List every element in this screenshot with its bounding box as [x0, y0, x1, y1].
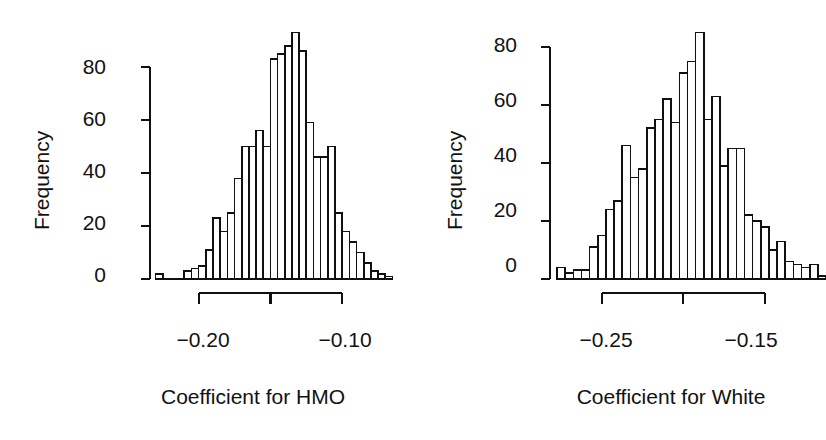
histogram-bar: [777, 241, 785, 279]
histogram-bar: [292, 33, 299, 279]
x-tick-label-right-1: −0.25: [556, 328, 656, 352]
histogram-bar: [687, 62, 695, 280]
histogram-bar: [299, 51, 306, 279]
histogram-bar: [285, 46, 292, 279]
histogram-bar: [191, 268, 198, 279]
histogram-bar: [590, 247, 598, 279]
histogram-bar: [720, 166, 728, 279]
panel-coefficient-for-hmo: Frequency 80 60 40 20 0 −0.20 −0.10 Coef…: [0, 0, 413, 440]
histogram-bar: [256, 131, 263, 279]
histogram-bar: [364, 263, 371, 279]
histogram-bar: [573, 270, 581, 279]
histogram-bar: [639, 169, 647, 279]
plot-area-left: [0, 0, 413, 440]
histogram-bar: [321, 157, 328, 279]
histogram-bar: [357, 253, 364, 280]
histogram-bar: [306, 123, 313, 279]
histogram-bar: [647, 128, 655, 279]
histogram-bar: [802, 267, 810, 279]
histogram-bar: [220, 231, 227, 279]
histogram-bar: [184, 271, 191, 279]
histogram-bar: [235, 178, 242, 279]
histogram-bar: [793, 265, 801, 280]
histogram-bar: [622, 146, 630, 279]
plot-area-right: [413, 0, 826, 440]
histogram-bar: [663, 99, 671, 279]
x-tick-label-left-2: −0.10: [295, 328, 395, 352]
histogram-bar: [349, 242, 356, 279]
histogram-bar: [371, 271, 378, 279]
histogram-bar: [342, 231, 349, 279]
histogram-bar: [753, 221, 761, 279]
histogram-bar: [242, 147, 249, 280]
histogram-bar: [206, 250, 213, 279]
histogram-bar: [728, 149, 736, 280]
histogram-bar: [313, 157, 320, 279]
histogram-bar: [704, 120, 712, 280]
histogram-bar: [736, 149, 744, 280]
x-axis-label-right: Coefficient for White: [531, 385, 811, 409]
histogram-bar: [769, 250, 777, 279]
histogram-bar: [328, 147, 335, 280]
histogram-bar: [557, 267, 565, 279]
panel-coefficient-for-white: Frequency 80 60 40 20 0 −0.25 −0.15 Coef…: [413, 0, 826, 440]
histogram-bar: [810, 265, 818, 280]
x-axis-label-left: Coefficient for HMO: [123, 385, 383, 409]
histogram-bar: [655, 120, 663, 280]
histogram-bar: [278, 54, 285, 279]
histogram-bar: [335, 213, 342, 279]
x-tick-label-right-2: −0.15: [701, 328, 801, 352]
histogram-bar: [630, 178, 638, 280]
histogram-bar: [745, 215, 753, 279]
histogram-bar: [712, 96, 720, 279]
histogram-bar: [582, 270, 590, 279]
figure-container: Frequency 80 60 40 20 0 −0.20 −0.10 Coef…: [0, 0, 826, 440]
histogram-bar: [671, 122, 679, 279]
histogram-bar: [785, 262, 793, 279]
histogram-bar: [606, 209, 614, 279]
histogram-bar: [598, 236, 606, 280]
histogram-bar: [270, 59, 277, 279]
histogram-bar: [679, 73, 687, 279]
histogram-bar: [761, 227, 769, 279]
histogram-bar: [199, 266, 206, 279]
histogram-bar: [614, 201, 622, 279]
histogram-bar: [263, 147, 270, 280]
histogram-bar: [696, 33, 704, 280]
x-tick-label-left-1: −0.20: [153, 328, 253, 352]
histogram-bar: [213, 218, 220, 279]
histogram-bar: [249, 147, 256, 280]
histogram-bar: [227, 213, 234, 279]
